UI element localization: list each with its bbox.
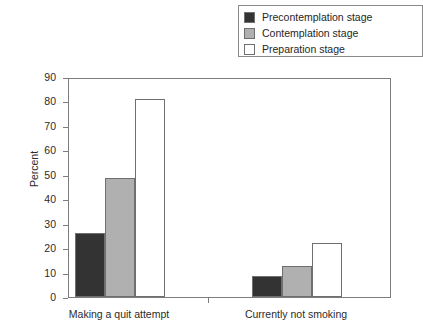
x-axis-center-tick (208, 298, 209, 303)
plot-area (68, 78, 391, 298)
bar (312, 243, 342, 297)
y-tick-label: 80 (44, 95, 56, 107)
legend-label-precontemplation: Precontemplation stage (262, 12, 372, 23)
chart-legend: Precontemplation stage Contemplation sta… (238, 5, 423, 57)
bar (252, 276, 282, 297)
bar (75, 233, 105, 297)
bar (282, 266, 312, 297)
y-axis-title: Percent (28, 129, 40, 209)
x-axis-group-label: Making a quit attempt (29, 308, 209, 320)
bar (105, 178, 135, 297)
y-tick-label: 30 (44, 218, 56, 230)
legend-swatch-precontemplation (244, 12, 255, 23)
y-tick-label: 10 (44, 267, 56, 279)
y-tick-label: 90 (44, 71, 56, 83)
y-tick-label: 60 (44, 144, 56, 156)
y-tick-label: 40 (44, 193, 56, 205)
y-tick-label: 50 (44, 169, 56, 181)
legend-swatch-contemplation (244, 28, 255, 39)
bar (135, 99, 165, 297)
y-tick-label: 20 (44, 242, 56, 254)
y-tick-mark (63, 298, 68, 299)
y-tick-label: 0 (50, 291, 56, 303)
legend-item-preparation: Preparation stage (244, 42, 422, 57)
x-axis-group-label: Currently not smoking (206, 308, 386, 320)
legend-item-contemplation: Contemplation stage (244, 26, 422, 41)
legend-label-contemplation: Contemplation stage (262, 28, 358, 39)
legend-swatch-preparation (244, 44, 255, 55)
y-tick-label: 70 (44, 120, 56, 132)
legend-item-precontemplation: Precontemplation stage (244, 10, 422, 25)
legend-label-preparation: Preparation stage (262, 44, 345, 55)
